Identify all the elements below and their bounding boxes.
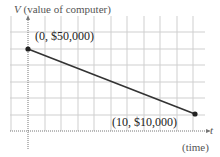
point-start-label: (0, $50,000) bbox=[35, 29, 94, 44]
chart-plot bbox=[0, 0, 220, 157]
point-start bbox=[25, 46, 30, 51]
point-end bbox=[192, 111, 197, 116]
y-axis-label: (value of computer) bbox=[23, 3, 110, 15]
x-axis-title: (time) bbox=[182, 141, 209, 153]
y-axis-symbol: V bbox=[14, 3, 21, 15]
y-axis-arrow bbox=[26, 15, 30, 20]
x-axis-symbol: t bbox=[210, 124, 213, 136]
y-axis-title: V (value of computer) bbox=[14, 3, 111, 15]
point-end-label: (10, $10,000) bbox=[112, 115, 177, 130]
